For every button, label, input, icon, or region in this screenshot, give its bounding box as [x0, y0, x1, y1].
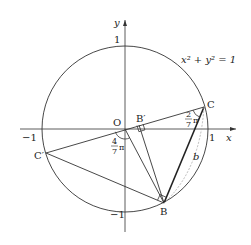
arc-b-label: b — [193, 151, 199, 162]
unit-circle-diagram: x² + y² = 1 y x 1 −1 1 −1 O C C′ B B′ 2 … — [0, 0, 251, 245]
y-axis-label: y — [113, 17, 120, 28]
x-axis-label: x — [226, 132, 232, 143]
point-b-label: B — [160, 206, 167, 217]
segment-ob — [125, 129, 164, 203]
segment-cprime-b — [46, 153, 164, 203]
tick-x-neg: −1 — [22, 132, 37, 143]
point-o-label: O — [113, 117, 121, 128]
tick-x-pos: 1 — [209, 132, 215, 143]
tick-y-pos: 1 — [114, 34, 120, 45]
angle-c-pi: π — [193, 116, 198, 125]
angle-o-denominator: 7 — [112, 147, 117, 156]
angle-c-numerator: 2 — [186, 110, 191, 119]
x-axis-arrow-icon — [230, 127, 236, 131]
y-axis-arrow-icon — [123, 20, 127, 26]
point-c-label: C — [207, 99, 215, 110]
point-bprime-label: B′ — [136, 113, 146, 124]
point-cprime-label: C′ — [34, 150, 45, 161]
equation-label: x² + y² = 1 — [181, 54, 236, 65]
tick-y-neg: −1 — [110, 209, 125, 220]
angle-c-denominator: 7 — [186, 120, 191, 129]
angle-o-pi: π — [119, 143, 124, 152]
angle-o-numerator: 4 — [112, 137, 117, 146]
segment-bprime-b — [139, 125, 164, 203]
